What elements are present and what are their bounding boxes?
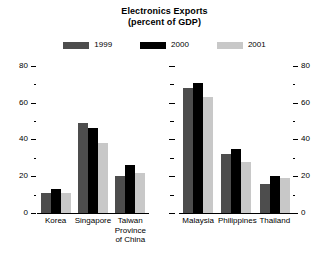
y-tick-label-20: 20	[19, 172, 28, 180]
panel-right	[179, 66, 294, 214]
bar	[260, 184, 270, 213]
y-tick-mark	[31, 176, 36, 177]
bar-group	[115, 66, 145, 213]
bar	[125, 165, 135, 213]
bar	[221, 154, 231, 213]
x-axis-label-line: Province	[112, 226, 149, 236]
y-tick-mark	[170, 195, 172, 196]
panel-left-baseline	[37, 213, 149, 214]
y-tick-mark	[170, 139, 175, 140]
bar	[193, 83, 203, 213]
panel-right-groups	[179, 66, 294, 213]
y-tick-mark	[170, 66, 175, 67]
bar	[280, 178, 290, 213]
y-tick-mark	[170, 121, 172, 122]
bar	[135, 173, 145, 213]
y-tick-10	[293, 195, 319, 196]
x-axis-label-line: Thailand	[256, 216, 293, 226]
y-tick-50	[293, 121, 319, 122]
y-tick-40: 40	[293, 139, 319, 140]
legend-label-2000: 2000	[171, 41, 189, 49]
y-tick-mark	[34, 158, 36, 159]
y-tick-80: 80	[293, 66, 319, 67]
x-axis-label: Korea	[37, 216, 74, 245]
bar-group	[221, 66, 251, 213]
y-tick-mark	[31, 139, 36, 140]
bar-group	[183, 66, 213, 213]
legend-label-1999: 1999	[94, 41, 112, 49]
bar	[183, 88, 193, 213]
bar	[88, 128, 98, 213]
x-axis-label: TaiwanProvinceof China	[112, 216, 149, 245]
y-tick-70	[293, 84, 319, 85]
x-axis-label-line: Singapore	[74, 216, 111, 226]
x-axis-label: Thailand	[256, 216, 293, 226]
y-tick-mark	[31, 213, 36, 214]
bar	[231, 149, 241, 213]
legend-swatch-2000	[140, 42, 166, 49]
y-tick-40: 40	[10, 139, 36, 140]
y-tick-mark	[34, 84, 36, 85]
y-tick-70	[10, 84, 36, 85]
y-tick-50	[10, 121, 36, 122]
y-tick-label-20: 20	[301, 172, 310, 180]
x-axis-label-row-right: MalaysiaPhilippinesThailand	[179, 216, 294, 226]
bar	[61, 193, 71, 213]
y-tick-label-60: 60	[19, 99, 28, 107]
bar-group	[41, 66, 71, 213]
y-tick-mark	[170, 176, 175, 177]
bar	[41, 193, 51, 213]
y-axis-outer-left: 020406080	[10, 66, 36, 214]
bar	[98, 143, 108, 213]
x-axis-labels-left: KoreaSingaporeTaiwanProvinceof China	[37, 216, 149, 256]
y-tick-mark	[34, 121, 36, 122]
legend-label-2001: 2001	[248, 41, 266, 49]
y-tick-label-40: 40	[19, 135, 28, 143]
y-tick-label-60: 60	[301, 99, 310, 107]
y-tick-20: 20	[293, 176, 319, 177]
y-tick-0: 0	[293, 213, 319, 214]
legend-swatch-2001	[217, 42, 243, 49]
y-tick-mark	[31, 103, 36, 104]
y-tick-30	[293, 158, 319, 159]
y-tick-label-80: 80	[301, 62, 310, 70]
chart-title-line-1: Electronics Exports	[0, 6, 329, 17]
x-axis-label-line: Korea	[37, 216, 74, 226]
x-axis-labels-right: MalaysiaPhilippinesThailand	[179, 216, 294, 256]
bar	[241, 162, 251, 213]
y-axis-outer-right: 020406080	[293, 66, 319, 214]
bar	[270, 176, 280, 213]
x-axis-label-line: of China	[112, 235, 149, 245]
y-tick-mark	[170, 103, 175, 104]
bar-group	[260, 66, 290, 213]
x-axis-label-line: Taiwan	[112, 216, 149, 226]
y-tick-mark	[170, 84, 172, 85]
y-tick-60: 60	[10, 103, 36, 104]
chart-title-line-2: (percent of GDP)	[0, 17, 329, 28]
legend-swatch-1999	[63, 42, 89, 49]
legend-item-2001: 2001	[217, 41, 266, 49]
x-axis-label-row-left: KoreaSingaporeTaiwanProvinceof China	[37, 216, 149, 245]
y-tick-label-40: 40	[301, 135, 310, 143]
y-tick-mark	[170, 158, 172, 159]
x-axis-label: Philippines	[218, 216, 255, 226]
chart-title: Electronics Exports (percent of GDP)	[0, 6, 329, 28]
panel-left	[37, 66, 149, 214]
y-tick-10	[10, 195, 36, 196]
plot-area: 020406080 020406080	[0, 66, 329, 216]
bar-group	[78, 66, 108, 213]
chart-figure: Electronics Exports (percent of GDP) 199…	[0, 0, 329, 260]
bar	[115, 176, 125, 213]
y-tick-mark	[31, 66, 36, 67]
y-tick-label-0: 0	[24, 209, 28, 217]
x-axis-label-line: Malaysia	[180, 216, 217, 226]
legend-item-1999: 1999	[63, 41, 112, 49]
y-tick-20: 20	[10, 176, 36, 177]
y-tick-mark	[170, 213, 175, 214]
y-tick-label-0: 0	[301, 209, 305, 217]
y-tick-60: 60	[293, 103, 319, 104]
panel-left-groups	[37, 66, 149, 213]
y-tick-mark	[34, 195, 36, 196]
bar	[51, 189, 61, 213]
panel-right-baseline	[179, 213, 294, 214]
